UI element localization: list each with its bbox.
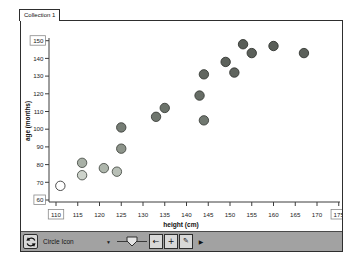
x-tick-label[interactable]: 175 (334, 211, 342, 218)
plot-toolbar: Circle Icon ▼ ← + ✎ ▶ (21, 231, 342, 251)
icon-type-dropdown[interactable]: Circle Icon ▼ (41, 234, 113, 249)
data-point[interactable] (117, 144, 126, 153)
icon-size-slider[interactable] (117, 234, 147, 249)
x-tick-label: 120 (94, 211, 105, 218)
x-tick-label: 155 (247, 211, 258, 218)
y-tick-label: 70 (37, 179, 44, 186)
x-tick-label: 130 (138, 211, 149, 218)
y-tick-label: 110 (34, 108, 44, 115)
x-tick-label: 145 (203, 211, 214, 218)
x-tick-label: 165 (290, 211, 301, 218)
data-point[interactable] (247, 48, 256, 57)
x-tick-label: 125 (116, 211, 127, 218)
x-tick-label: 140 (181, 211, 192, 218)
data-point[interactable] (195, 91, 204, 100)
data-point[interactable] (238, 40, 247, 49)
x-axis-title[interactable]: height (cm) (163, 221, 199, 229)
screenshot-canvas: { "tab": { "label": "Collection 1" }, "c… (0, 0, 352, 260)
data-point[interactable] (160, 103, 169, 112)
y-tick-label[interactable]: 60 (37, 196, 44, 203)
y-tick-label: 140 (33, 55, 44, 62)
data-point[interactable] (199, 70, 208, 79)
scatter-plot: 6070809010011012013014015011011512012513… (21, 21, 342, 231)
data-point[interactable] (299, 48, 308, 57)
mix-button[interactable] (23, 234, 38, 249)
mix-rotate-arrows-icon (25, 236, 37, 248)
x-tick-label: 150 (225, 211, 236, 218)
data-point[interactable] (230, 68, 239, 77)
toolbar-expand-arrow[interactable]: ▶ (197, 234, 205, 249)
x-tick-label: 170 (312, 211, 323, 218)
data-point[interactable] (221, 57, 230, 66)
data-point[interactable] (199, 116, 208, 125)
data-point[interactable] (151, 112, 160, 121)
y-tick-label: 90 (37, 143, 44, 150)
x-tick-label: 160 (268, 211, 279, 218)
x-tick-label[interactable]: 110 (51, 211, 61, 218)
data-point[interactable] (77, 158, 86, 167)
y-tick-label[interactable]: 150 (33, 37, 44, 44)
data-point[interactable] (77, 171, 86, 180)
x-tick-label: 135 (160, 211, 171, 218)
data-point[interactable] (117, 123, 126, 132)
y-tick-label: 130 (33, 72, 44, 79)
chevron-down-icon: ▼ (106, 239, 113, 245)
collection-tab[interactable]: Collection 1 (19, 9, 60, 21)
add-case-button[interactable]: + (164, 234, 178, 249)
slider-thumb[interactable] (126, 236, 138, 247)
y-tick-label: 80 (37, 161, 44, 168)
data-point[interactable] (56, 181, 65, 190)
data-point[interactable] (112, 167, 121, 176)
select-arrow-button[interactable]: ← (149, 234, 163, 249)
data-point[interactable] (99, 163, 108, 172)
collection-tab-label: Collection 1 (24, 12, 55, 18)
data-point[interactable] (269, 41, 278, 50)
x-tick-label: 115 (73, 211, 83, 218)
plot-window: 6070809010011012013014015011011512012513… (20, 20, 343, 252)
icon-type-label: Circle Icon (41, 238, 106, 245)
y-axis-title[interactable]: age (months) (24, 101, 32, 141)
y-tick-label: 120 (33, 90, 44, 97)
y-tick-label: 100 (33, 125, 44, 132)
draw-tool-button[interactable]: ✎ (179, 234, 193, 249)
